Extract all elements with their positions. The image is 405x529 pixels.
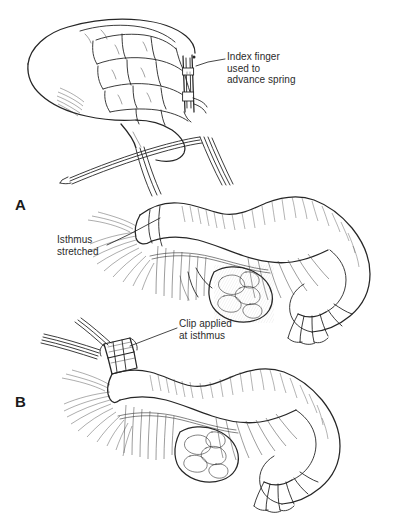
medical-illustration-figure: .ln { fill:none; stroke:#262626; stroke-… bbox=[0, 0, 405, 529]
callout-isthmus-stretched-label: Isthmus stretched bbox=[57, 234, 99, 257]
panel-label-a: A bbox=[15, 197, 26, 212]
callout-clip-applied-label: Clip applied at isthmus bbox=[179, 318, 232, 341]
callout-index-finger-label: Index finger used to advance spring bbox=[227, 51, 296, 86]
illustration-artwork: .ln { fill:none; stroke:#262626; stroke-… bbox=[0, 0, 405, 529]
panel-label-b: B bbox=[15, 394, 26, 409]
